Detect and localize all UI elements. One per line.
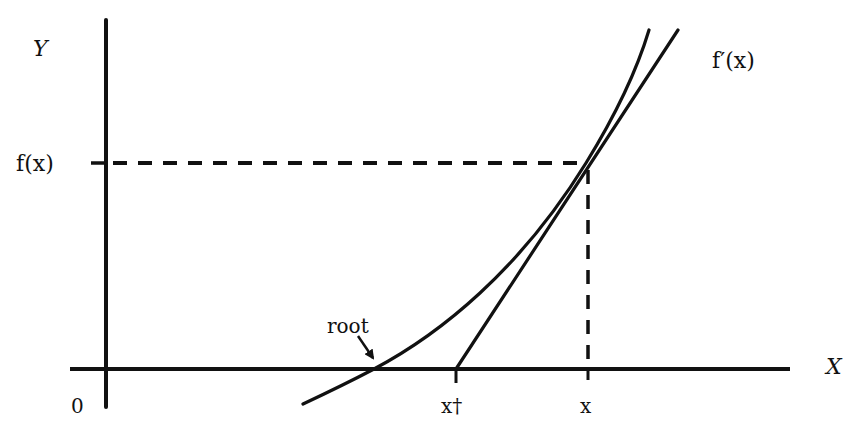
function-curve — [303, 30, 649, 404]
x-value-label: x — [580, 396, 591, 416]
y-axis-label: Y — [33, 38, 48, 60]
x-dagger-label: x† — [441, 396, 462, 416]
fx-label: f(x) — [16, 153, 54, 175]
x-axis-label: X — [826, 356, 842, 378]
origin-label: 0 — [71, 396, 84, 416]
tangent-line — [456, 30, 678, 369]
root-arrow-icon — [358, 336, 373, 358]
derivative-label: f′(x) — [712, 50, 755, 72]
root-label: root — [327, 316, 369, 336]
